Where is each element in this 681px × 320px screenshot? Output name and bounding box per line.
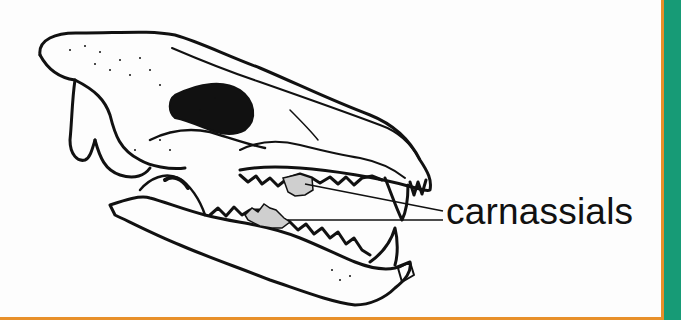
mandible-ramus [140,176,205,215]
orbit [170,84,253,134]
frame-green-band [664,0,681,320]
diagram-canvas: carnassials [0,0,681,320]
zygomatic-arch [150,130,265,148]
nasal-line [290,110,318,140]
carnassials-label: carnassials [446,190,633,234]
condyle [165,178,188,188]
stipple-texture [69,45,351,281]
brow-line [40,55,185,169]
lower-canine [370,228,397,265]
skull-drawing [0,0,681,320]
lower-teeth [210,207,370,255]
occipital [70,80,95,160]
